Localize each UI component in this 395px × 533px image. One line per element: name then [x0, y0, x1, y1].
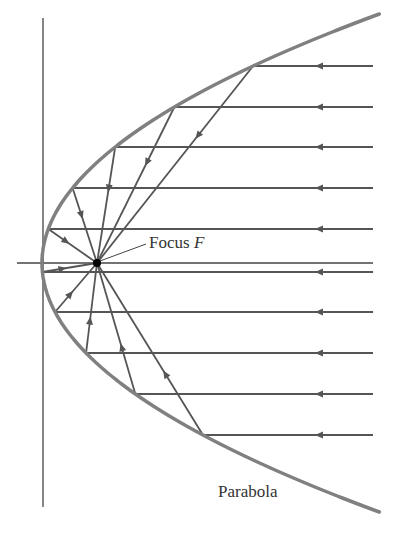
focus-point — [93, 259, 101, 267]
arrowhead-icon — [119, 343, 126, 352]
arrowhead-icon — [315, 309, 323, 316]
reflected-ray — [97, 263, 203, 435]
reflected-ray — [73, 188, 97, 263]
arrowhead-icon — [315, 185, 323, 192]
parabola-label: Parabola — [218, 482, 277, 502]
arrowhead-icon — [315, 226, 323, 233]
arrowhead-icon — [61, 236, 70, 243]
parabola-diagram: Focus F Parabola — [0, 0, 395, 533]
arrowhead-icon — [315, 104, 323, 111]
reflected-ray — [42, 263, 97, 272]
arrowhead-icon — [315, 144, 323, 151]
parabola-figure — [0, 0, 395, 533]
arrowhead-icon — [315, 432, 323, 439]
reflected-ray — [86, 263, 97, 353]
arrowhead-icon — [315, 269, 323, 276]
arrowhead-icon — [315, 391, 323, 398]
reflected-ray — [48, 229, 97, 263]
reflected-ray — [97, 263, 135, 394]
arrowhead-icon — [315, 63, 323, 70]
focus-leader-line — [100, 244, 146, 261]
focus-label: Focus F — [149, 233, 204, 253]
arrowhead-icon — [77, 210, 84, 219]
focus-symbol: F — [194, 233, 204, 252]
focus-label-text: Focus — [149, 233, 194, 252]
arrowhead-icon — [315, 350, 323, 357]
